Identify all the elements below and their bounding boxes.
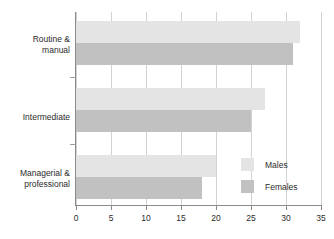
horizontal-bar-chart: Routine & manual Intermediate Managerial…: [0, 0, 334, 239]
x-axis-tick: [251, 206, 252, 210]
y-axis-tick: [70, 144, 76, 145]
bar-managerial-professional-females: [76, 177, 202, 199]
legend-item-males: Males: [241, 158, 288, 171]
y-axis-line: [75, 12, 76, 206]
x-axis-tick: [181, 206, 182, 210]
x-axis-tick: [321, 206, 322, 210]
x-axis-tick: [76, 206, 77, 210]
x-tick-label: 30: [274, 213, 298, 223]
y-axis-tick: [70, 77, 76, 78]
x-axis-line: [75, 205, 322, 206]
bar-routine-manual-males: [76, 21, 300, 43]
bar-intermediate-males: [76, 88, 265, 110]
x-tick-label: 20: [204, 213, 228, 223]
x-axis-tick: [286, 206, 287, 210]
x-axis-tick: [111, 206, 112, 210]
gridline: [321, 12, 322, 205]
plot-area: [76, 12, 321, 205]
category-label-line: Intermediate: [4, 112, 70, 123]
x-tick-label: 25: [239, 213, 263, 223]
category-label-line: Managerial &: [4, 168, 70, 179]
category-label-managerial-professional: Managerial & professional: [4, 168, 70, 189]
x-axis-tick: [146, 206, 147, 210]
x-tick-label: 35: [309, 213, 333, 223]
legend-label-males: Males: [265, 160, 288, 170]
x-tick-label: 5: [99, 213, 123, 223]
category-label-line: Routine &: [4, 34, 70, 45]
legend-swatch-females-icon: [241, 180, 254, 193]
legend-item-females: Females: [241, 180, 298, 193]
category-label-routine-manual: Routine & manual: [4, 34, 70, 55]
x-tick-label: 15: [169, 213, 193, 223]
legend-label-females: Females: [265, 182, 298, 192]
bar-routine-manual-females: [76, 43, 293, 65]
x-axis-tick: [216, 206, 217, 210]
bar-managerial-professional-males: [76, 155, 216, 177]
legend-swatch-males-icon: [241, 158, 254, 171]
category-label-intermediate: Intermediate: [4, 112, 70, 123]
x-tick-label: 10: [134, 213, 158, 223]
category-label-line: professional: [4, 179, 70, 190]
bar-intermediate-females: [76, 110, 251, 132]
category-label-line: manual: [4, 45, 70, 56]
x-tick-label: 0: [64, 213, 88, 223]
